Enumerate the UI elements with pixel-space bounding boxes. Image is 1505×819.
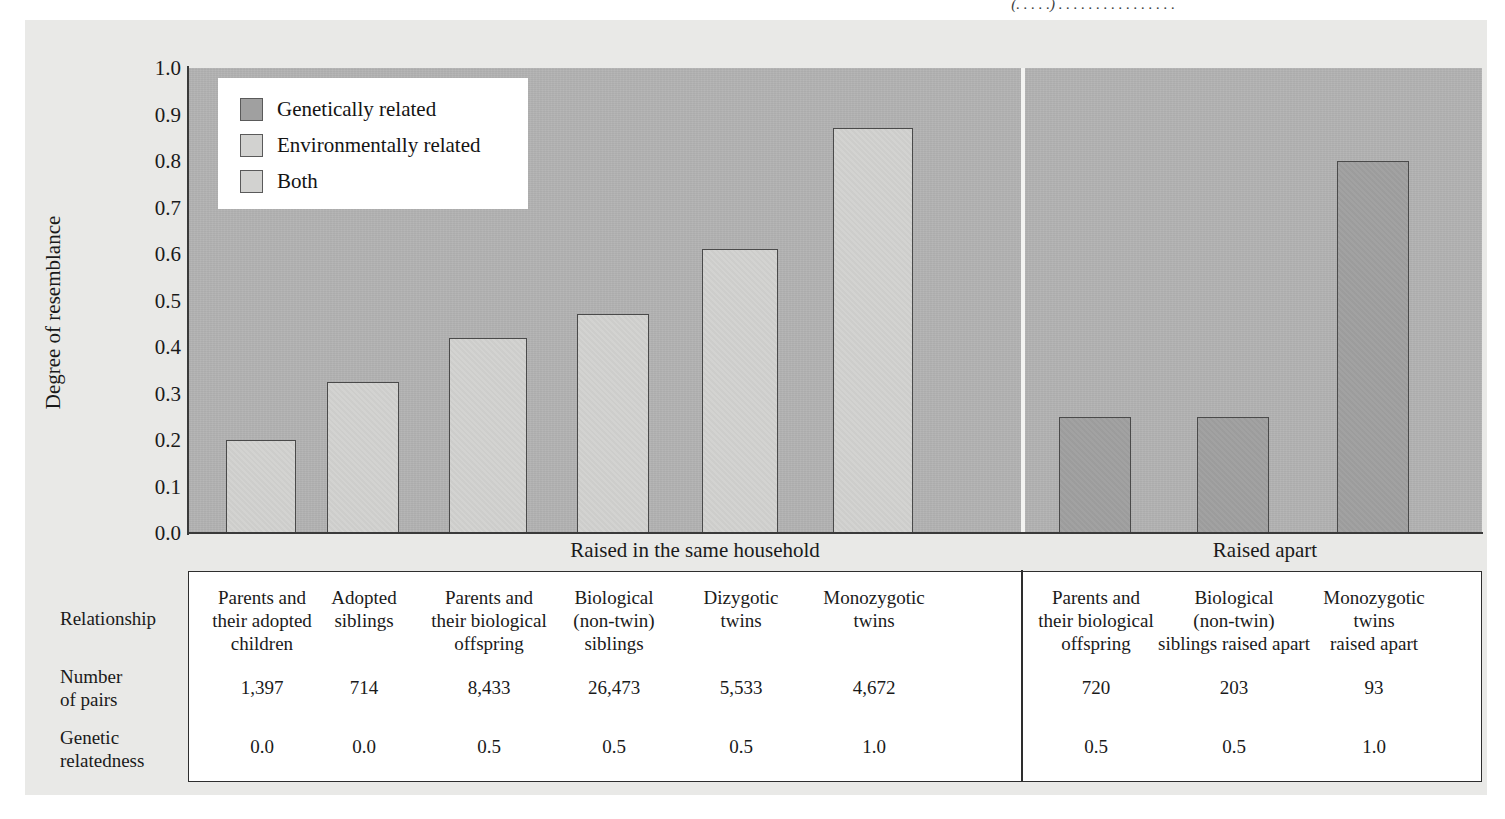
table-cell-relatedness: 1.0 (1292, 735, 1457, 758)
legend-item-env[interactable]: Environmentally related (240, 127, 528, 163)
bar-texture (450, 339, 526, 532)
y-tick-label: 0.5 (131, 288, 181, 313)
bar-texture (1060, 418, 1130, 532)
row-label-relatedness: Geneticrelatedness (60, 726, 186, 772)
table-cell-pairs: 93 (1292, 676, 1457, 699)
group-label-apart: Raised apart (1085, 538, 1445, 563)
y-tick-label: 0.8 (131, 149, 181, 174)
bar (1059, 417, 1131, 533)
bar (833, 128, 913, 533)
table-cell-pairs: 5,533 (671, 676, 811, 699)
legend-swatch-icon (240, 98, 263, 121)
bar (1337, 161, 1409, 533)
bar-texture (328, 383, 398, 532)
group-label-household: Raised in the same household (395, 538, 995, 563)
y-tick-label: 0.1 (131, 474, 181, 499)
bar (577, 314, 649, 533)
bar (226, 440, 296, 533)
table-cell-pairs: 4,672 (799, 676, 949, 699)
y-tick-label: 0.6 (131, 242, 181, 267)
figure-panel: 1.00.90.80.70.60.50.40.30.20.10.0 Degree… (25, 20, 1487, 795)
row-label-relationship: Relationship (60, 607, 186, 630)
bar-texture (578, 315, 648, 532)
table-cell-pairs: 26,473 (539, 676, 689, 699)
legend-item-both[interactable]: Both (240, 163, 528, 199)
bar (327, 382, 399, 533)
legend-label: Environmentally related (277, 133, 481, 158)
bar (1197, 417, 1269, 533)
table-cell-relatedness: 1.0 (799, 735, 949, 758)
bar-texture (703, 250, 777, 532)
legend-swatch-icon (240, 134, 263, 157)
bar (449, 338, 527, 533)
y-tick-label: 0.7 (131, 195, 181, 220)
bar (702, 249, 778, 533)
data-table: Parents andtheir adoptedchildren1,3970.0… (188, 571, 1482, 782)
row-label-pairs: Numberof pairs (60, 665, 186, 711)
table-cell-relationship: Monozygotictwinsraised apart (1292, 586, 1457, 656)
top-caption-fragment: (. . . . .) . . . . . . . . . . . . . . … (0, 0, 1505, 14)
bar-texture (1338, 162, 1408, 532)
y-tick-label: 0.4 (131, 335, 181, 360)
bar-texture (1198, 418, 1268, 532)
y-tick-label: 0.9 (131, 102, 181, 127)
table-cell-relationship: Monozygotictwins (799, 586, 949, 632)
y-tick-label: 0.2 (131, 428, 181, 453)
legend-label: Both (277, 169, 318, 194)
group-divider (1021, 68, 1025, 533)
legend-swatch-icon (240, 170, 263, 193)
table-cell-relatedness: 0.5 (671, 735, 811, 758)
y-axis-title: Degree of resemblance (41, 163, 66, 463)
bar-texture (834, 129, 912, 532)
bar-texture (227, 441, 295, 532)
table-cell-relationship: Biological(non-twin)siblings (539, 586, 689, 656)
y-tick-label: 0.0 (131, 521, 181, 546)
y-axis-line (187, 66, 189, 535)
table-cell-relatedness: 0.5 (539, 735, 689, 758)
legend-item-gen[interactable]: Genetically related (240, 91, 528, 127)
figure-root: (. . . . .) . . . . . . . . . . . . . . … (0, 0, 1505, 819)
legend-label: Genetically related (277, 97, 436, 122)
legend: Genetically relatedEnvironmentally relat… (218, 78, 528, 209)
y-tick-label: 0.3 (131, 381, 181, 406)
table-cell-relationship: Dizygotictwins (671, 586, 811, 632)
y-tick-label: 1.0 (131, 56, 181, 81)
x-axis-line (187, 532, 1483, 534)
